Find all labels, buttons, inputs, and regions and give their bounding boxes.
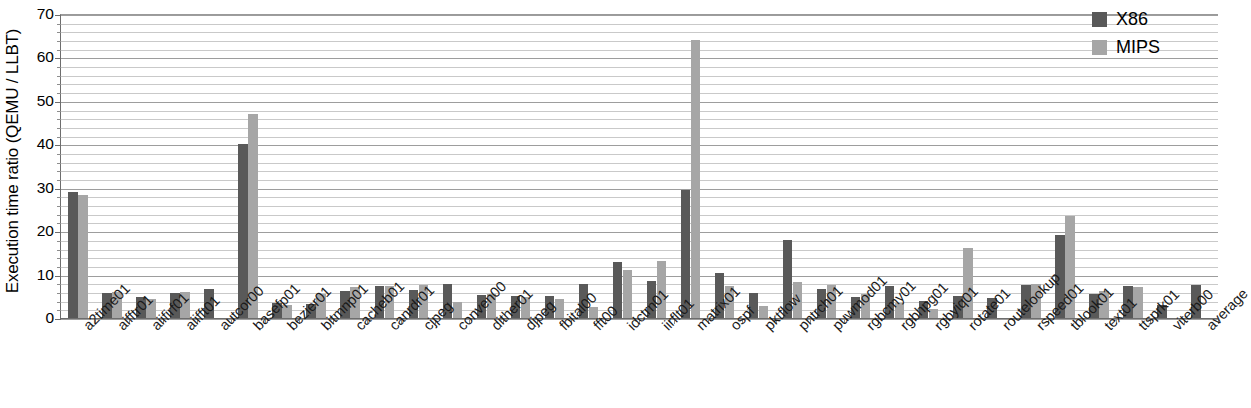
y-tick-mark-minor — [57, 267, 61, 268]
y-tick-mark-minor — [57, 241, 61, 242]
y-tick-mark-minor — [57, 197, 61, 198]
legend-entry[interactable]: MIPS — [1092, 34, 1212, 60]
bar-group — [129, 15, 163, 319]
y-tick-label: 30 — [37, 179, 54, 197]
bar-group — [674, 15, 708, 319]
y-tick-mark-minor — [57, 206, 61, 207]
y-tick-label: 20 — [37, 222, 54, 240]
legend-swatch-x86 — [1092, 12, 1107, 27]
y-tick-mark — [55, 15, 61, 16]
bar-group — [810, 15, 844, 319]
bar-mips — [623, 270, 633, 319]
y-tick-mark-minor — [57, 93, 61, 94]
y-axis-tick-labels: 010203040506070 — [22, 0, 58, 322]
bar-x86 — [68, 192, 78, 319]
y-tick-label: 0 — [45, 309, 54, 327]
y-tick-mark — [55, 189, 61, 190]
chart-legend: X86MIPS — [1092, 6, 1212, 62]
y-tick-mark-minor — [57, 24, 61, 25]
y-tick-label: 70 — [37, 5, 54, 23]
bar-group — [401, 15, 435, 319]
y-tick-mark-minor — [57, 137, 61, 138]
y-tick-mark — [55, 102, 61, 103]
bar-group — [571, 15, 605, 319]
y-tick-label: 50 — [37, 92, 54, 110]
bar-group — [435, 15, 469, 319]
bar-group — [95, 15, 129, 319]
bar-group — [912, 15, 946, 319]
y-tick-mark — [55, 276, 61, 277]
bars-layer — [61, 15, 1218, 319]
y-tick-mark-minor — [57, 293, 61, 294]
y-tick-mark-minor — [57, 111, 61, 112]
y-tick-mark-minor — [57, 50, 61, 51]
x-axis-tick-labels: a2time01aifftr01aiifirf01aiifft01autcor0… — [60, 322, 1217, 408]
y-tick-mark-minor — [57, 119, 61, 120]
y-tick-mark-minor — [57, 41, 61, 42]
bar-group — [742, 15, 776, 319]
y-tick-mark-minor — [57, 154, 61, 155]
y-tick-label: 10 — [37, 266, 54, 284]
legend-label: X86 — [1116, 9, 1148, 30]
bar-group — [537, 15, 571, 319]
y-tick-mark — [55, 58, 61, 59]
legend-entry[interactable]: X86 — [1092, 6, 1212, 32]
bar-group — [163, 15, 197, 319]
legend-swatch-mips — [1092, 40, 1107, 55]
y-tick-mark-minor — [57, 76, 61, 77]
bar-group — [231, 15, 265, 319]
y-tick-mark-minor — [57, 84, 61, 85]
bar-group — [61, 15, 95, 319]
bar-group — [197, 15, 231, 319]
y-tick-label: 60 — [37, 48, 54, 66]
bar-group — [844, 15, 878, 319]
y-tick-mark-minor — [57, 302, 61, 303]
plot-area — [60, 14, 1218, 319]
legend-label: MIPS — [1116, 37, 1160, 58]
y-tick-mark — [55, 319, 61, 320]
bar-group — [469, 15, 503, 319]
bar-group — [640, 15, 674, 319]
y-tick-mark-minor — [57, 250, 61, 251]
bar-group — [503, 15, 537, 319]
y-tick-mark-minor — [57, 163, 61, 164]
bar-group — [1014, 15, 1048, 319]
bar-group — [605, 15, 639, 319]
bar-mips — [78, 195, 88, 319]
y-tick-mark-minor — [57, 32, 61, 33]
y-tick-mark-minor — [57, 67, 61, 68]
bar-group — [946, 15, 980, 319]
y-tick-mark-minor — [57, 258, 61, 259]
bar-group — [776, 15, 810, 319]
y-tick-mark — [55, 145, 61, 146]
bar-group — [367, 15, 401, 319]
y-tick-mark-minor — [57, 223, 61, 224]
y-axis-title-text: Execution time ratio (QEMU / LLBT) — [3, 29, 23, 293]
bar-group — [265, 15, 299, 319]
bar-group — [980, 15, 1014, 319]
bar-group — [333, 15, 367, 319]
y-tick-mark-minor — [57, 128, 61, 129]
bar-group — [708, 15, 742, 319]
y-tick-mark-minor — [57, 180, 61, 181]
y-tick-mark-minor — [57, 171, 61, 172]
bar-mips — [691, 40, 701, 319]
y-tick-label: 40 — [37, 135, 54, 153]
y-tick-mark-minor — [57, 284, 61, 285]
y-tick-mark-minor — [57, 215, 61, 216]
y-tick-mark — [55, 232, 61, 233]
bar-group — [878, 15, 912, 319]
bar-group — [299, 15, 333, 319]
y-tick-mark-minor — [57, 310, 61, 311]
